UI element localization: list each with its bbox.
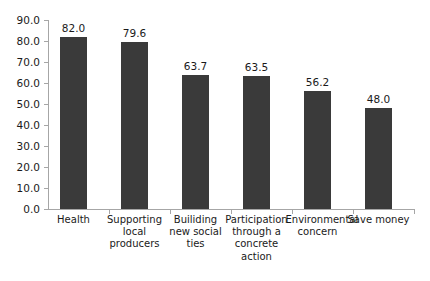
y-axis-tick [44,188,48,189]
bar-chart: 90.080.070.060.050.040.030.020.010.00.08… [0,0,430,281]
bar [182,75,209,209]
y-axis-tick-label: 50.0 [0,99,40,110]
y-axis-tick [44,83,48,84]
y-axis-tick-label: 90.0 [0,15,40,26]
x-axis-category-label: Environmental concern [286,214,350,238]
bar [60,37,87,209]
bar-value-label: 63.5 [227,62,287,73]
x-axis-category-label: Participation through a concrete action [225,214,289,263]
y-axis-tick-label: 70.0 [0,57,40,68]
bar [304,91,331,209]
y-axis-tick-label: 30.0 [0,141,40,152]
y-axis-tick-label: 40.0 [0,120,40,131]
x-axis-category-label: Supporting local producers [103,214,167,251]
y-axis-tick [44,104,48,105]
y-axis-tick-label: 0.0 [0,204,40,215]
x-axis-category-label: Health [42,214,106,226]
y-axis-tick [44,20,48,21]
y-axis-tick-label: 20.0 [0,162,40,173]
y-axis-tick-label: 10.0 [0,183,40,194]
y-axis-tick [44,62,48,63]
bar [243,76,270,209]
x-axis-category-label: Save money [347,214,411,226]
bar-value-label: 48.0 [349,94,409,105]
bar [365,108,392,209]
bar-value-label: 63.7 [166,61,226,72]
x-axis-tick [414,210,415,214]
y-axis-tick [44,41,48,42]
bar-value-label: 82.0 [44,23,104,34]
y-axis-tick [44,209,48,210]
y-axis-tick-label: 60.0 [0,78,40,89]
bar-value-label: 79.6 [105,28,165,39]
y-axis-tick [44,167,48,168]
bar [121,42,148,209]
bar-value-label: 56.2 [288,77,348,88]
y-axis-line [48,20,49,210]
y-axis-tick [44,146,48,147]
y-axis-tick-label: 80.0 [0,36,40,47]
y-axis-tick [44,125,48,126]
x-axis-category-label: Builiding new social ties [164,214,228,251]
